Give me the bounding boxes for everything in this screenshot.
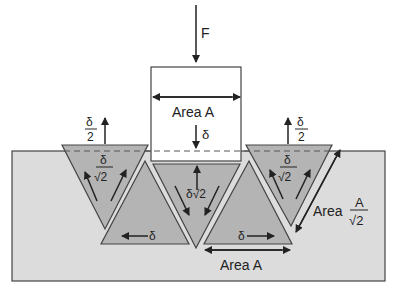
side-area-word: Area [313,203,343,219]
right-wedge-num: δ [284,153,291,167]
force-label: F [201,25,210,41]
left-up-den: 2 [87,130,94,144]
slip-line-diagram: F Area A δ δ 2 δ 2 δ √2 δ √2 δ√2 δ δ Are… [0,0,395,289]
right-up-num: δ [297,115,304,129]
left-wedge-den: √2 [94,170,108,184]
punch-disp-label: δ [202,127,209,142]
right-up-den: 2 [298,130,305,144]
bottom-area-label: Area A [220,257,263,273]
left-slide-label: δ [149,229,156,243]
punch-area-label: Area A [172,104,215,120]
left-up-num: δ [86,115,93,129]
left-wedge-num: δ [100,153,107,167]
center-wedge-label: δ√2 [186,187,206,201]
right-wedge-den: √2 [278,170,292,184]
side-area-den: √2 [349,213,363,228]
side-area-num: A [355,195,364,210]
right-slide-label: δ [238,229,245,243]
